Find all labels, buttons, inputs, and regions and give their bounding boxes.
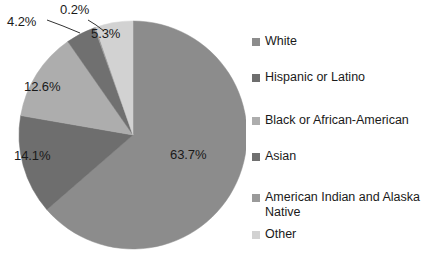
legend-item-asian[interactable]: Asian <box>252 149 296 164</box>
legend-item-label: Hispanic or Latino <box>265 70 365 85</box>
legend-item-hispanic-or-latino[interactable]: Hispanic or Latino <box>252 70 365 85</box>
legend-item-label: American Indian and Alaska Native <box>265 190 430 220</box>
legend-item-white[interactable]: White <box>252 34 297 49</box>
slice-label-american-indian-and-alaska-native: 0.2% <box>60 2 89 17</box>
legend-swatch-icon <box>252 194 260 202</box>
slice-label-hispanic-or-latino: 14.1% <box>14 148 50 163</box>
legend-item-black-or-african-american[interactable]: Black or African-American <box>252 113 409 128</box>
slice-label-other: 5.3% <box>91 26 120 41</box>
slice-label-black-or-african-american: 12.6% <box>24 79 60 94</box>
chart-plot-area: 63.7% 14.1% 12.6% 4.2% 0.2% 5.3% <box>0 0 246 256</box>
legend-swatch-icon <box>252 117 260 125</box>
pie-slices-group <box>19 21 246 249</box>
legend-item-label: White <box>265 34 297 49</box>
legend-item-other[interactable]: Other <box>252 227 296 242</box>
legend-swatch-icon <box>252 74 260 82</box>
legend-swatch-icon <box>252 153 260 161</box>
slice-label-white: 63.7% <box>170 147 206 162</box>
chart-legend: White Hispanic or Latino Black or Africa… <box>252 0 433 256</box>
legend-item-label: Other <box>265 227 296 242</box>
legend-item-label: Asian <box>265 149 296 164</box>
slice-label-asian: 4.2% <box>7 14 36 29</box>
legend-swatch-icon <box>252 231 260 239</box>
leader-line-asian <box>47 20 80 33</box>
legend-item-american-indian-and-alaska-native[interactable]: American Indian and Alaska Native <box>252 190 430 220</box>
legend-item-label: Black or African-American <box>265 113 409 128</box>
pie-chart-svg <box>0 0 246 256</box>
pie-chart-figure: 63.7% 14.1% 12.6% 4.2% 0.2% 5.3% White H… <box>0 0 433 256</box>
legend-swatch-icon <box>252 38 260 46</box>
